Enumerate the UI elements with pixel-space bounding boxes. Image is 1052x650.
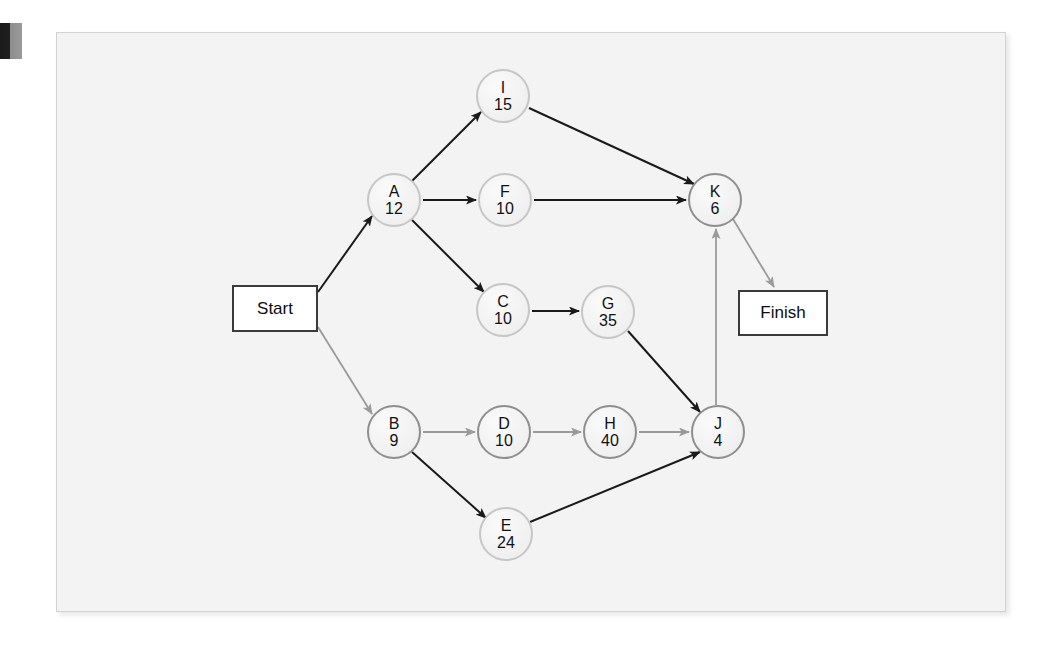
activity-node-B-id: B [389, 415, 400, 432]
activity-node-A: A12 [367, 173, 421, 227]
activity-node-I-duration: 15 [494, 96, 512, 113]
activity-node-A-id: A [389, 183, 400, 200]
activity-node-H-id: H [604, 415, 616, 432]
activity-node-C-id: C [497, 293, 509, 310]
activity-node-B: B9 [367, 405, 421, 459]
activity-node-H: H40 [583, 405, 637, 459]
activity-node-J: J4 [691, 405, 745, 459]
activity-node-I: I15 [476, 69, 530, 123]
activity-node-A-duration: 12 [385, 200, 403, 217]
page-edge-marker [0, 23, 22, 59]
figure-page: I15A12F10K6C10G35B9D10H40J4E24 StartFini… [0, 0, 1052, 650]
activity-node-D-duration: 10 [495, 432, 513, 449]
activity-node-E-id: E [501, 517, 512, 534]
activity-node-G: G35 [581, 285, 635, 339]
activity-node-C: C10 [476, 283, 530, 337]
activity-node-F-id: F [500, 183, 510, 200]
activity-node-K-id: K [710, 183, 721, 200]
activity-node-H-duration: 40 [601, 432, 619, 449]
activity-node-C-duration: 10 [494, 310, 512, 327]
activity-node-G-id: G [602, 295, 614, 312]
activity-node-B-duration: 9 [390, 432, 399, 449]
start-label: Start [257, 299, 293, 319]
activity-node-D-id: D [498, 415, 510, 432]
finish-node: Finish [738, 290, 828, 336]
activity-node-F: F10 [478, 173, 532, 227]
activity-node-J-duration: 4 [714, 432, 723, 449]
activity-node-D: D10 [477, 405, 531, 459]
finish-label: Finish [760, 303, 805, 323]
activity-node-E: E24 [479, 507, 533, 561]
start-node: Start [232, 285, 318, 332]
activity-node-J-id: J [714, 415, 722, 432]
activity-node-E-duration: 24 [497, 534, 515, 551]
activity-node-G-duration: 35 [599, 312, 617, 329]
activity-node-K: K6 [688, 173, 742, 227]
activity-node-I-id: I [501, 79, 505, 96]
activity-node-F-duration: 10 [496, 200, 514, 217]
activity-node-K-duration: 6 [711, 200, 720, 217]
